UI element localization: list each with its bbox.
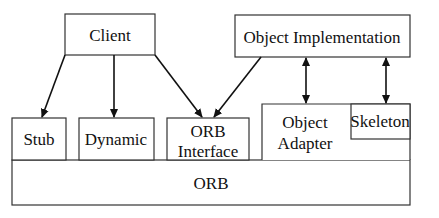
arrow-object-implementation-to-orb-interface [214,57,261,117]
arrow-client-to-orb-interface [155,55,202,117]
dynamic-box: Dynamic [79,118,154,160]
orb-interface-label-line2: Interface [178,142,238,161]
object-adapter-label-line2: Adapter [278,134,333,153]
orb-label: ORB [194,174,229,193]
orb-interface-label-line1: ORB [191,122,226,141]
orb-interface-box: ORB Interface [167,118,249,161]
stub-label: Stub [23,130,54,149]
arrow-client-to-stub [42,55,65,117]
orb-box: ORB [12,160,410,205]
stub-box: Stub [12,118,66,160]
corba-architecture-diagram: ORB Object Adapter Skeleton Stub Dynamic… [0,0,439,218]
dynamic-label: Dynamic [85,130,148,149]
client-box: Client [65,14,155,55]
object-adapter-label-line1: Object [282,113,328,132]
object-implementation-box: Object Implementation [235,15,410,57]
skeleton-box: Skeleton [350,104,410,139]
skeleton-label: Skeleton [350,112,410,131]
object-implementation-label: Object Implementation [243,28,401,47]
client-label: Client [89,26,131,45]
